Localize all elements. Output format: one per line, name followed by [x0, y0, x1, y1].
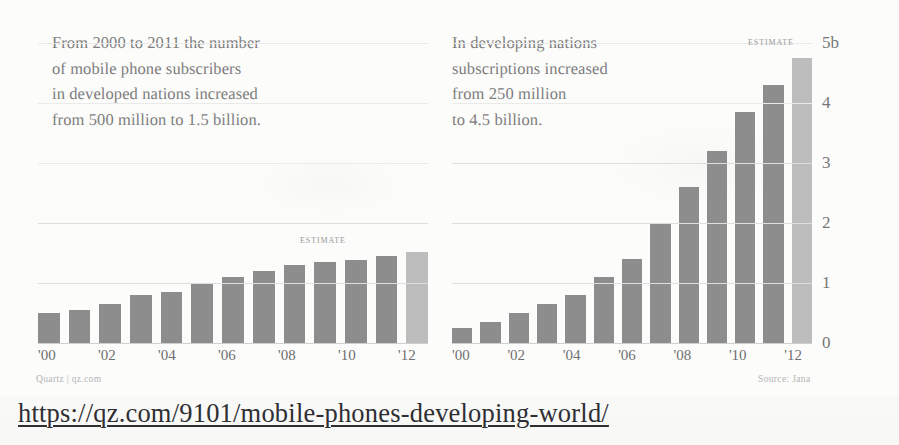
axis-baseline [452, 343, 812, 344]
x-tick-blank: · [188, 347, 218, 371]
x-tick-10: '10 [338, 347, 368, 371]
x-tick-blank: · [701, 347, 729, 371]
x-tick-blank: · [535, 347, 563, 371]
x-tick-blank: · [368, 347, 398, 371]
x-tick-blank: · [308, 347, 338, 371]
x-tick-00: '00 [38, 347, 68, 371]
chart-panel-developed: From 2000 to 2011 the number of mobile p… [30, 0, 435, 396]
y-axis-labels: 5b43210 [822, 0, 882, 396]
gridline-3b [38, 163, 428, 164]
gridline-4b [38, 103, 428, 104]
y-tick-5b: 5b [822, 34, 839, 51]
x-tick-12: '12 [398, 347, 428, 371]
bar-2001 [480, 322, 500, 343]
gridline-5b [38, 43, 428, 44]
bar-2003 [130, 295, 152, 343]
bar-2012 [792, 58, 812, 343]
x-tick-10: '10 [729, 347, 757, 371]
bar-2009 [314, 262, 336, 343]
bar-2002 [99, 304, 121, 343]
y-tick-1: 1 [822, 274, 831, 291]
x-tick-blank: · [128, 347, 158, 371]
x-tick-blank: · [590, 347, 618, 371]
axis-baseline [38, 343, 428, 344]
y-tick-4: 4 [822, 94, 831, 111]
x-tick-blank: · [646, 347, 674, 371]
x-tick-04: '04 [158, 347, 188, 371]
estimate-annotation-developed: ESTIMATE [300, 236, 346, 245]
bar-2010 [345, 260, 367, 343]
credit-quartz: Quartz | qz.com [36, 374, 101, 384]
bar-2005 [191, 283, 213, 343]
bar-2003 [537, 304, 557, 343]
bar-2004 [565, 295, 585, 343]
bar-2012 [406, 252, 428, 343]
scanned-page: From 2000 to 2011 the number of mobile p… [0, 0, 899, 445]
y-tick-3: 3 [822, 154, 831, 171]
bar-2002 [509, 313, 529, 343]
bar-2008 [679, 187, 699, 343]
bar-2007 [253, 271, 275, 343]
credit-source: Source: Jana [758, 374, 810, 384]
bar-2006 [222, 277, 244, 343]
gridline-2b [452, 223, 812, 224]
gridline-3b [452, 163, 812, 164]
x-tick-06: '06 [218, 347, 248, 371]
x-tick-blank: · [68, 347, 98, 371]
y-tick-0: 0 [822, 334, 831, 351]
bar-2000 [38, 313, 60, 343]
x-tick-blank: · [480, 347, 508, 371]
article-url-link[interactable]: https://qz.com/9101/mobile-phones-develo… [18, 398, 609, 429]
x-axis-developing: '00·'02·'04·'06·'08·'10·'12 [452, 347, 812, 371]
bar-2006 [622, 259, 642, 343]
estimate-annotation-developing: ESTIMATE [748, 38, 794, 47]
gridline-1b [452, 283, 812, 284]
bar-2004 [161, 292, 183, 343]
plot-area-developing [452, 43, 812, 343]
gridline-4b [452, 103, 812, 104]
x-tick-08: '08 [278, 347, 308, 371]
plot-area-developed [38, 43, 428, 343]
x-tick-06: '06 [618, 347, 646, 371]
gridline-2b [38, 223, 428, 224]
bar-series-developed [38, 43, 428, 343]
bar-2011 [763, 85, 783, 343]
x-tick-12: '12 [784, 347, 812, 371]
x-tick-blank: · [757, 347, 785, 371]
bar-2001 [69, 310, 91, 343]
bar-2011 [376, 256, 398, 343]
infographic-figure: From 2000 to 2011 the number of mobile p… [0, 0, 899, 396]
y-tick-2: 2 [822, 214, 831, 231]
x-tick-02: '02 [507, 347, 535, 371]
bar-2008 [284, 265, 306, 343]
x-tick-04: '04 [563, 347, 591, 371]
x-tick-08: '08 [674, 347, 702, 371]
bar-series-developing [452, 43, 812, 343]
gridline-1b [38, 283, 428, 284]
x-tick-00: '00 [452, 347, 480, 371]
x-axis-developed: '00·'02·'04·'06·'08·'10·'12 [38, 347, 428, 371]
x-tick-02: '02 [98, 347, 128, 371]
bar-2009 [707, 151, 727, 343]
x-tick-blank: · [248, 347, 278, 371]
bar-2010 [735, 112, 755, 343]
bar-2005 [594, 277, 614, 343]
bar-2000 [452, 328, 472, 343]
